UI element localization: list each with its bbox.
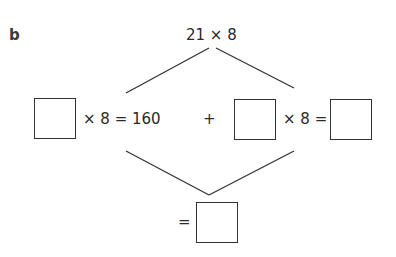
answer-box-result[interactable] <box>196 202 238 243</box>
left-term-expression: × 8 = 160 <box>83 110 161 128</box>
part-label: b <box>9 26 20 44</box>
right-term-expression: × 8 = <box>283 110 327 128</box>
result-equals: = <box>178 213 191 231</box>
plus-operator: + <box>203 110 216 128</box>
answer-box-left[interactable] <box>34 98 76 139</box>
answer-box-right-product[interactable] <box>330 99 372 140</box>
top-expression: 21 × 8 <box>186 26 237 44</box>
answer-box-right-multiplicand[interactable] <box>234 99 276 140</box>
